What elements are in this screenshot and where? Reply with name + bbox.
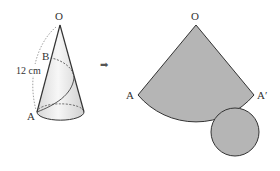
net-point-a-label: A <box>126 89 134 101</box>
cone-point-a-label: A <box>27 110 35 122</box>
cone-net-diagram: O B A 12 cm ➡ O A A′ <box>0 0 280 171</box>
net-apex-label: O <box>191 10 199 22</box>
cone-net: O A A′ <box>126 10 267 156</box>
base-circle <box>211 108 259 156</box>
arrow-right-icon: ➡ <box>100 59 109 70</box>
cone-apex-label: O <box>55 10 63 22</box>
net-point-a-prime-label: A′ <box>257 89 267 101</box>
lateral-sector <box>138 25 254 122</box>
cone-point-b-label: B <box>42 50 49 62</box>
slant-length-label: 12 cm <box>16 65 41 76</box>
cone-figure: O B A 12 cm <box>14 10 84 122</box>
